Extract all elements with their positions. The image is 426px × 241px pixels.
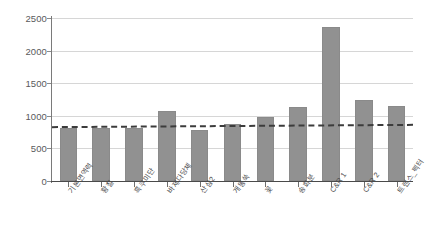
bar[interactable] — [355, 100, 373, 181]
plot-area — [52, 18, 413, 181]
y-tick-label-2500: 2500 — [3, 13, 47, 24]
bar[interactable] — [191, 130, 209, 182]
y-tick-label-1500: 1500 — [3, 78, 47, 89]
grid-line-2500 — [52, 18, 413, 19]
bar[interactable] — [125, 128, 143, 181]
x-axis-label[interactable]: 꽃 — [262, 183, 275, 195]
bar[interactable] — [388, 106, 406, 181]
grid-line-2000 — [52, 51, 413, 52]
bar[interactable] — [158, 111, 176, 181]
bar[interactable] — [224, 124, 242, 181]
y-tick-label-2000: 2000 — [3, 45, 47, 56]
grid-line-1500 — [52, 83, 413, 84]
bar[interactable] — [92, 128, 110, 181]
y-tick-label-1000: 1000 — [3, 110, 47, 121]
bar[interactable] — [289, 107, 307, 181]
bar[interactable] — [322, 27, 340, 181]
y-axis: 0 500 1000 1500 2000 2500 — [0, 0, 47, 241]
y-tick-label-0: 0 — [3, 176, 47, 187]
y-tick-label-500: 500 — [3, 143, 47, 154]
